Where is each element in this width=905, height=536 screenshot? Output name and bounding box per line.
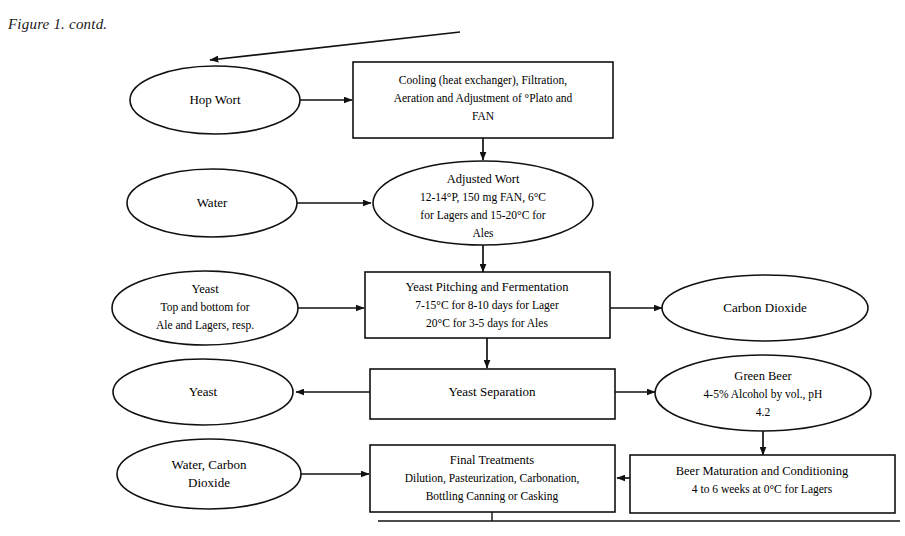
node-carbon-dioxide-label: Carbon Dioxide: [723, 300, 807, 315]
node-yeast-output: Yeast: [113, 359, 293, 425]
node-adjusted-wort: Adjusted Wort 12-14°P, 150 mg FAN, 6°C f…: [373, 161, 593, 245]
node-fermentation-line-1: Yeast Pitching and Fermentation: [406, 280, 570, 294]
node-fermentation-line-2: 7-15°C for 8-10 days for Lager: [415, 299, 559, 312]
node-beer-maturation: Beer Maturation and Conditioning 4 to 6 …: [630, 455, 895, 513]
node-green-beer-line-3: 4.2: [756, 406, 771, 418]
node-final-treatments: Final Treatments Dilution, Pasteurizatio…: [370, 445, 615, 512]
node-water-label: Water: [197, 195, 228, 210]
node-adjusted-wort-line-4: Ales: [472, 227, 494, 239]
node-yeast-input-line-1: Yeast: [191, 282, 219, 296]
node-fermentation: Yeast Pitching and Fermentation 7-15°C f…: [365, 272, 610, 338]
node-adjusted-wort-line-3: for Lagers and 15-20°C for: [420, 209, 545, 222]
node-cooling-line-1: Cooling (heat exchanger), Filtration,: [399, 74, 567, 87]
node-fermentation-line-3: 20°C for 3-5 days for Ales: [426, 317, 548, 330]
node-green-beer-line-2: 4-5% Alcohol by vol., pH: [704, 388, 823, 401]
node-hop-wort: Hop Wort: [130, 66, 300, 134]
node-beer-maturation-line-2: 4 to 6 weeks at 0°C for Lagers: [692, 483, 833, 496]
node-green-beer: Green Beer 4-5% Alcohol by vol., pH 4.2: [655, 355, 871, 431]
node-cooling: Cooling (heat exchanger), Filtration, Ae…: [353, 62, 613, 138]
node-cooling-line-3: FAN: [472, 110, 495, 122]
node-adjusted-wort-line-1: Adjusted Wort: [447, 172, 520, 186]
node-adjusted-wort-line-2: 12-14°P, 150 mg FAN, 6°C: [420, 191, 546, 204]
node-yeast-separation-label: Yeast Separation: [448, 384, 536, 399]
node-carbon-dioxide: Carbon Dioxide: [662, 275, 868, 341]
node-water-carbon-dioxide: Water, Carbon Dioxide: [117, 439, 301, 509]
node-yeast-input: Yeast Top and bottom for Ale and Lagers,…: [112, 271, 298, 345]
node-water-carbon-dioxide-line-1: Water, Carbon: [172, 457, 247, 472]
node-final-treatments-line-2: Dilution, Pasteurization, Carbonation,: [405, 472, 580, 485]
edge-offpage-to-hop-wort: [210, 32, 460, 60]
node-final-treatments-line-3: Bottling Canning or Casking: [426, 490, 559, 503]
flowchart-diagram: Hop Wort Cooling (heat exchanger), Filtr…: [0, 0, 905, 536]
node-cooling-line-2: Aeration and Adjustment of °Plato and: [394, 92, 573, 105]
node-yeast-input-line-3: Ale and Lagers, resp.: [156, 319, 254, 332]
node-beer-maturation-line-1: Beer Maturation and Conditioning: [676, 464, 849, 478]
node-green-beer-line-1: Green Beer: [734, 369, 792, 383]
node-hop-wort-label: Hop Wort: [189, 92, 240, 107]
node-water: Water: [127, 169, 297, 237]
node-water-carbon-dioxide-line-2: Dioxide: [188, 475, 230, 490]
node-final-treatments-line-1: Final Treatments: [450, 453, 535, 467]
node-yeast-output-label: Yeast: [189, 384, 218, 399]
node-yeast-separation: Yeast Separation: [370, 369, 615, 419]
node-yeast-input-line-2: Top and bottom for: [161, 301, 250, 314]
